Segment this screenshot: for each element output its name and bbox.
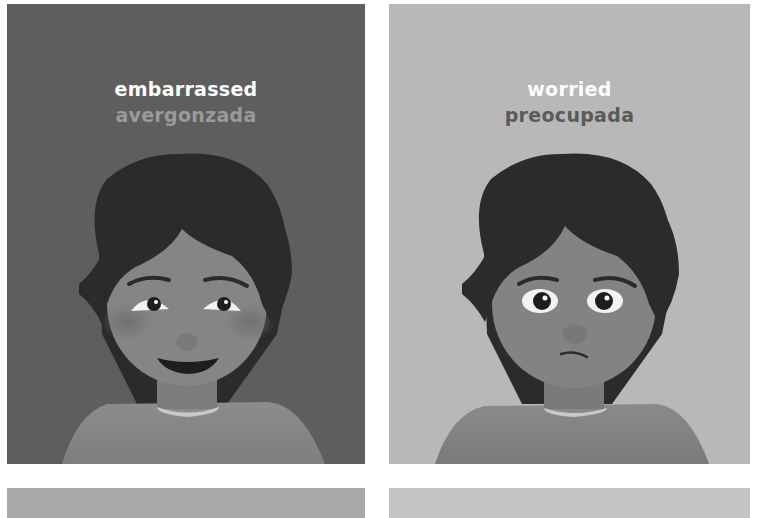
emotion-card-3 bbox=[7, 488, 365, 518]
emotion-card-4 bbox=[389, 488, 750, 518]
shirt bbox=[62, 402, 325, 464]
girl-illustration-worried bbox=[389, 4, 750, 464]
emotion-card-embarrassed: embarrassed avergonzada bbox=[7, 4, 365, 464]
girl-illustration-embarrassed bbox=[7, 4, 365, 464]
emotion-card-worried: worried preocupada bbox=[389, 4, 750, 464]
